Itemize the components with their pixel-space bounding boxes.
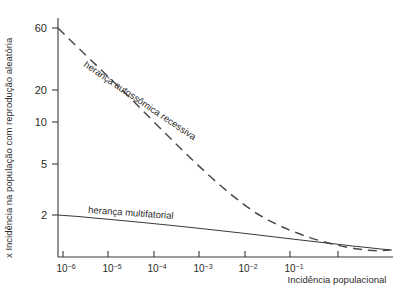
y-axis-title: x Incidência na população com reprodução… <box>3 37 14 258</box>
x-tick-label-1e-5: 10−5 <box>102 263 121 275</box>
y-tick-label-2: 2 <box>41 209 47 221</box>
y-tick-label-5: 5 <box>41 158 47 170</box>
x-tick-label-1e-6: 10−6 <box>56 263 75 275</box>
x-tick-label-1e-4: 10−4 <box>147 263 166 275</box>
x-tick-label-1e-2: 10−2 <box>238 263 257 275</box>
x-tick-label-1e-3: 10−3 <box>193 263 212 275</box>
x-tick-label-1e-1: 10−1 <box>284 263 303 275</box>
y-tick-label-60: 60 <box>35 22 47 34</box>
curve-heranca-multifatorial <box>58 215 392 250</box>
y-tick-label-10: 10 <box>35 116 47 128</box>
y-tick-label-20: 20 <box>35 84 47 96</box>
series-label-recessive: herança autossômica recessiva <box>82 59 199 143</box>
chart-figure: 60 20 10 5 2 10−6 10−5 10−4 10−3 10−2 10… <box>0 0 410 290</box>
chart-plot-area: 60 20 10 5 2 10−6 10−5 10−4 10−3 10−2 10… <box>0 0 410 290</box>
x-axis-title: Incidência populacional <box>288 274 387 285</box>
curve-heranca-autossomica-recessiva <box>58 28 390 251</box>
